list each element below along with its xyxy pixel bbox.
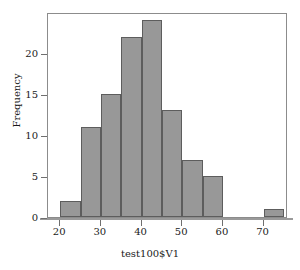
histogram-figure: 05101520 203040506070 test100$V1 Frequen… — [0, 0, 300, 270]
histogram-bar — [101, 94, 121, 217]
y-tick-mark — [41, 218, 47, 219]
y-tick-label: 20 — [0, 49, 38, 59]
histogram-bar — [81, 127, 101, 217]
y-tick-mark — [41, 177, 47, 178]
x-tick-label: 70 — [248, 227, 278, 237]
bars-layer — [48, 14, 286, 217]
histogram-bar — [60, 201, 80, 217]
x-axis-title: test100$V1 — [0, 248, 300, 259]
x-tick-label: 40 — [126, 227, 156, 237]
x-tick-label: 20 — [44, 227, 74, 237]
histogram-bar — [182, 160, 202, 217]
y-tick-label: 5 — [0, 172, 38, 182]
y-axis-title: Frequency — [11, 61, 22, 141]
histogram-bar — [162, 110, 182, 217]
histogram-bar — [121, 37, 141, 217]
x-axis-line — [40, 218, 293, 220]
y-tick-mark — [41, 95, 47, 96]
y-tick-mark — [41, 136, 47, 137]
plot-area — [47, 13, 287, 218]
x-tick-label: 30 — [85, 227, 115, 237]
y-axis-line — [47, 13, 48, 218]
histogram-bar — [142, 20, 162, 217]
x-tick-label: 50 — [166, 227, 196, 237]
histogram-bar — [264, 209, 284, 217]
x-tick-label: 60 — [207, 227, 237, 237]
y-tick-label: 0 — [0, 213, 38, 223]
histogram-bar — [203, 176, 223, 217]
y-tick-mark — [41, 54, 47, 55]
